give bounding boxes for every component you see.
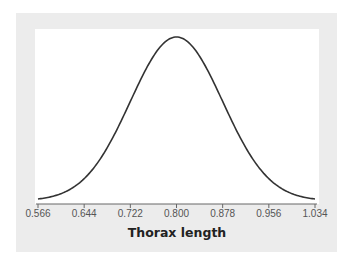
x-tick-label: 0.956	[256, 208, 281, 219]
x-tick-label: 1.034	[302, 208, 327, 219]
x-tick-label: 0.644	[72, 208, 97, 219]
x-axis-title: Thorax length	[128, 225, 227, 240]
x-tick-label: 0.800	[164, 208, 189, 219]
x-tick-label: 0.722	[118, 208, 143, 219]
x-tick-label: 0.566	[25, 208, 50, 219]
x-tick-label: 0.878	[210, 208, 235, 219]
density-curve	[38, 37, 315, 199]
